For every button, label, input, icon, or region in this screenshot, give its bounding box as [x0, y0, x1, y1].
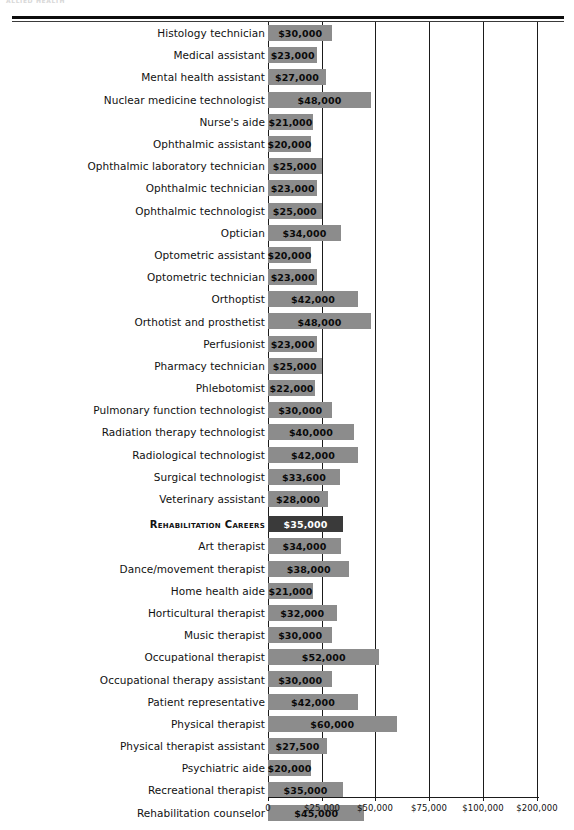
category-label: Phlebotomist	[196, 382, 265, 394]
bar-value-label: $23,000	[271, 183, 315, 194]
category-label: Horticultural therapist	[148, 607, 265, 619]
table-row: Optician$34,000	[0, 222, 574, 244]
category-label: Recreational therapist	[148, 784, 265, 796]
bar-rows: Histology technician$30,000Medical assis…	[0, 22, 574, 824]
bar-value-label: $30,000	[278, 630, 322, 641]
bar-value-label: $35,000	[284, 519, 328, 530]
table-row: Mental health assistant$27,000	[0, 66, 574, 88]
table-row: Optometric assistant$20,000	[0, 244, 574, 266]
table-row: Pulmonary function technologist$30,000	[0, 399, 574, 421]
table-row: Occupational therapy assistant$30,000	[0, 668, 574, 690]
category-label: Occupational therapist	[144, 651, 265, 663]
section-header-label: Rehabilitation Careers	[150, 519, 265, 530]
bar-value-label: $30,000	[278, 674, 322, 685]
bar-value-label: $42,000	[291, 449, 335, 460]
table-row: Physical therapist assistant$27,500	[0, 735, 574, 757]
category-label: Physical therapist	[171, 718, 265, 730]
table-row: Dance/movement therapist$38,000	[0, 558, 574, 580]
category-label: Optometric assistant	[154, 249, 265, 261]
bar-value-label: $52,000	[302, 652, 346, 663]
category-label: Nurse's aide	[199, 116, 265, 128]
table-row: Orthotist and prosthetist$48,000	[0, 310, 574, 332]
table-row: Radiological technologist$42,000	[0, 444, 574, 466]
table-row: Patient representative$42,000	[0, 691, 574, 713]
bar-value-label: $23,000	[271, 338, 315, 349]
category-label: Nuclear medicine technologist	[104, 94, 265, 106]
bar-value-label: $48,000	[297, 94, 341, 105]
bar-value-label: $48,000	[297, 316, 341, 327]
table-row: Ophthalmic technologist$25,000	[0, 200, 574, 222]
category-label: Ophthalmic technician	[146, 182, 265, 194]
axis-tick	[322, 797, 323, 801]
category-label: Occupational therapy assistant	[100, 674, 265, 686]
table-row: Psychiatric aide$20,000	[0, 757, 574, 779]
table-row: Surgical technologist$33,600	[0, 466, 574, 488]
category-label: Patient representative	[147, 696, 265, 708]
category-label: Mental health assistant	[141, 71, 265, 83]
category-label: Ophthalmic laboratory technician	[87, 160, 265, 172]
bar-value-label: $38,000	[287, 563, 331, 574]
table-row: Optometric technician$23,000	[0, 266, 574, 288]
category-label: Physical therapist assistant	[120, 740, 265, 752]
bar-value-label: $34,000	[282, 541, 326, 552]
table-row: Music therapist$30,000	[0, 624, 574, 646]
running-head: ALLIED HEALTH	[6, 0, 65, 4]
axis-tick-label: 0	[265, 803, 271, 813]
table-row: Rehabilitation Careers$35,000	[0, 513, 574, 535]
category-label: Home health aide	[171, 585, 265, 597]
category-label: Surgical technologist	[154, 471, 265, 483]
bar-value-label: $27,000	[275, 72, 319, 83]
bar-value-label: $35,000	[284, 785, 328, 796]
category-label: Radiological technologist	[132, 449, 265, 461]
table-row: Phlebotomist$22,000	[0, 377, 574, 399]
category-label: Orthotist and prosthetist	[134, 316, 265, 328]
bar-value-label: $30,000	[278, 405, 322, 416]
table-row: Art therapist$34,000	[0, 535, 574, 557]
bar-value-label: $25,000	[273, 205, 317, 216]
axis-tick	[375, 797, 376, 801]
table-row: Ophthalmic laboratory technician$25,000	[0, 155, 574, 177]
table-row: Radiation therapy technologist$40,000	[0, 421, 574, 443]
axis-tick-label: $25,000	[304, 803, 340, 813]
bar-value-label: $60,000	[310, 718, 354, 729]
axis-tick	[429, 797, 430, 801]
category-label: Optician	[221, 227, 265, 239]
category-label: Orthoptist	[211, 293, 265, 305]
category-label: Ophthalmic technologist	[135, 205, 265, 217]
chart-page: ALLIED HEALTH Histology technician$30,00…	[0, 0, 574, 830]
axis-tick	[268, 797, 269, 801]
category-label: Art therapist	[198, 540, 265, 552]
category-label: Psychiatric aide	[182, 762, 265, 774]
x-axis-line	[268, 797, 539, 798]
axis-tick	[483, 797, 484, 801]
table-row: Recreational therapist$35,000	[0, 779, 574, 801]
table-row: Veterinary assistant$28,000	[0, 488, 574, 510]
bar-value-label: $27,500	[275, 741, 319, 752]
table-row: Physical therapist$60,000	[0, 713, 574, 735]
table-row: Ophthalmic assistant$20,000	[0, 133, 574, 155]
category-label: Rehabilitation counselor	[137, 807, 265, 819]
bar-value-label: $34,000	[282, 227, 326, 238]
category-label: Histology technician	[157, 27, 265, 39]
table-row: Nuclear medicine technologist$48,000	[0, 89, 574, 111]
table-row: Occupational therapist$52,000	[0, 646, 574, 668]
table-row: Histology technician$30,000	[0, 22, 574, 44]
table-row: Orthoptist$42,000	[0, 288, 574, 310]
category-label: Pharmacy technician	[154, 360, 265, 372]
bar-value-label: $28,000	[276, 494, 320, 505]
bar-value-label: $21,000	[269, 116, 313, 127]
axis-tick-label: $75,000	[411, 803, 447, 813]
axis-tick-label: $100,000	[462, 803, 503, 813]
table-row: Perfusionist$23,000	[0, 333, 574, 355]
table-row: Medical assistant$23,000	[0, 44, 574, 66]
bar-value-label: $33,600	[282, 471, 326, 482]
axis-tick-label: $200,000	[516, 803, 557, 813]
top-rule	[12, 16, 564, 19]
category-label: Perfusionist	[203, 338, 265, 350]
table-row: Ophthalmic technician$23,000	[0, 177, 574, 199]
bar-value-label: $25,000	[273, 360, 317, 371]
bar-value-label: $22,000	[270, 383, 314, 394]
bar-value-label: $20,000	[267, 249, 311, 260]
category-label: Veterinary assistant	[159, 493, 265, 505]
category-label: Music therapist	[184, 629, 265, 641]
